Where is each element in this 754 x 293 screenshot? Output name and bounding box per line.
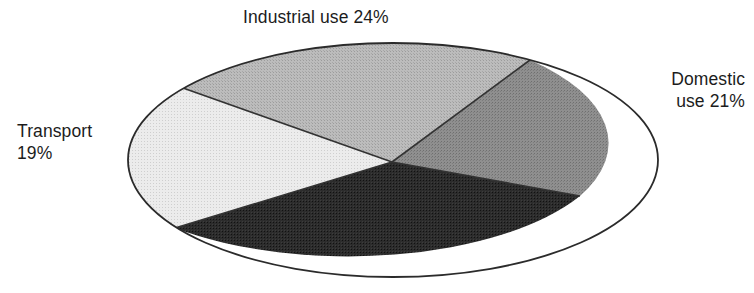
pie-label-transport: Transport 19%: [17, 120, 92, 164]
pie-chart-figure: Industrial use 24% Domestic use 21% Tran…: [0, 0, 754, 293]
pie-label-domestic-use: Domestic use 21%: [671, 68, 745, 112]
pie-chart-svg: [0, 0, 754, 293]
pie-label-industrial-use: Industrial use 24%: [243, 6, 389, 28]
